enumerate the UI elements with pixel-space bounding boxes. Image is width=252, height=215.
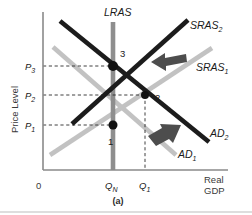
point-label-3: 3: [120, 48, 125, 59]
svg-text:Q1: Q1: [139, 180, 150, 193]
curve-label-sras2-base: SRAS: [190, 19, 219, 31]
svg-text:SRAS2: SRAS2: [190, 19, 223, 33]
xtick-qn: QN: [105, 180, 118, 193]
ytick-p3-sub: 3: [31, 67, 35, 74]
xtick-q1: Q1: [139, 180, 150, 193]
svg-text:P3: P3: [25, 61, 35, 74]
point-label-2: 2: [155, 92, 160, 103]
equilibrium-point-1: [109, 121, 118, 130]
equilibrium-point-3: [108, 61, 118, 71]
x-axis-title-line2: GDP: [204, 185, 225, 196]
y-axis-title: Price Level: [9, 86, 20, 133]
ytick-p3: P3: [25, 61, 35, 74]
curve-label-ad1: AD1: [177, 148, 197, 162]
curve-label-sras1: SRAS1: [196, 61, 229, 75]
curve-label-ad1-sub: 1: [193, 155, 197, 162]
curve-label-ad2-base: AD: [209, 127, 225, 139]
svg-text:AD2: AD2: [209, 127, 229, 141]
curve-label-ad1-base: AD: [177, 148, 193, 160]
curve-ad2: [60, 21, 209, 142]
curve-label-ad2-sub: 2: [224, 134, 229, 141]
curve-label-sras1-base: SRAS: [196, 61, 225, 73]
curve-label-sras2: SRAS2: [190, 19, 223, 33]
ytick-p1: P1: [25, 120, 35, 133]
ad-as-figure: P3 P2 P1 QN Q1 0 Price Level Real GDP LR…: [0, 0, 252, 215]
equilibrium-point-2: [141, 91, 149, 99]
svg-text:AD1: AD1: [177, 148, 197, 162]
ytick-p2: P2: [25, 90, 35, 103]
ytick-p1-sub: 1: [31, 126, 35, 133]
svg-text:P2: P2: [25, 90, 35, 103]
xtick-q1-sub: 1: [146, 186, 150, 193]
curve-label-lras: LRAS: [104, 6, 131, 18]
svg-text:SRAS1: SRAS1: [196, 61, 229, 75]
figure-caption: (a): [113, 196, 124, 206]
svg-text:P1: P1: [25, 120, 35, 133]
curve-label-sras1-sub: 1: [225, 68, 229, 75]
chart-canvas: P3 P2 P1 QN Q1 0 Price Level Real GDP LR…: [0, 0, 252, 215]
origin-label: 0: [36, 180, 41, 191]
curve-label-sras2-sub: 2: [218, 26, 223, 33]
ytick-p2-sub: 2: [30, 96, 35, 103]
curve-label-ad2: AD2: [209, 127, 229, 141]
svg-text:QN: QN: [105, 180, 118, 193]
x-axis-title-line1: Real: [204, 174, 224, 185]
xtick-qn-sub: N: [112, 186, 118, 193]
point-label-1: 1: [108, 136, 113, 147]
